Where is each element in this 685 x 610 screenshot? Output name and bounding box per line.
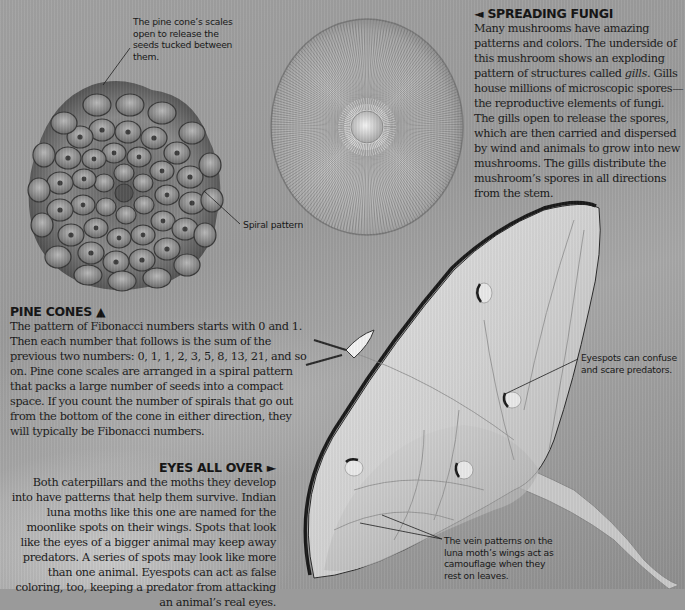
section-eyes-all-over: EYES ALL OVER ► Both caterpillars and th… bbox=[10, 460, 276, 610]
arrow-left-icon: ◄ bbox=[474, 6, 483, 21]
caption-vein-patterns: The vein patterns on the luna moth’s win… bbox=[444, 535, 554, 581]
section-body: The pattern of Fibonacci numbers starts … bbox=[10, 319, 310, 439]
arrow-up-icon: ▲ bbox=[96, 304, 105, 319]
section-heading: ◄ SPREADING FUNGI bbox=[474, 6, 684, 21]
caption-eyespots: Eyespots can confuse and scare predators… bbox=[581, 352, 685, 375]
heading-text: PINE CONES bbox=[10, 304, 92, 319]
italic-term: gills bbox=[625, 67, 647, 80]
arrow-right-icon: ► bbox=[267, 460, 276, 475]
heading-text: EYES ALL OVER bbox=[159, 460, 263, 475]
pine-cone-image bbox=[22, 75, 227, 295]
section-body: Many mushrooms have amazing patterns and… bbox=[474, 21, 684, 201]
section-pine-cones: PINE CONES ▲ The pattern of Fibonacci nu… bbox=[10, 304, 310, 439]
body-text: . Gills house millions of microscopic sp… bbox=[474, 67, 683, 200]
section-heading: PINE CONES ▲ bbox=[10, 304, 310, 319]
luna-moth-image bbox=[284, 190, 685, 589]
section-body: Both caterpillars and the moths they dev… bbox=[10, 475, 276, 610]
section-spreading-fungi: ◄ SPREADING FUNGI Many mushrooms have am… bbox=[474, 6, 684, 201]
section-heading: EYES ALL OVER ► bbox=[10, 460, 276, 475]
caption-spiral-pattern: Spiral pattern bbox=[243, 219, 303, 231]
heading-text: SPREADING FUNGI bbox=[487, 6, 613, 21]
caption-pine-cone-scales: The pine cone’s scales open to release t… bbox=[133, 16, 243, 62]
